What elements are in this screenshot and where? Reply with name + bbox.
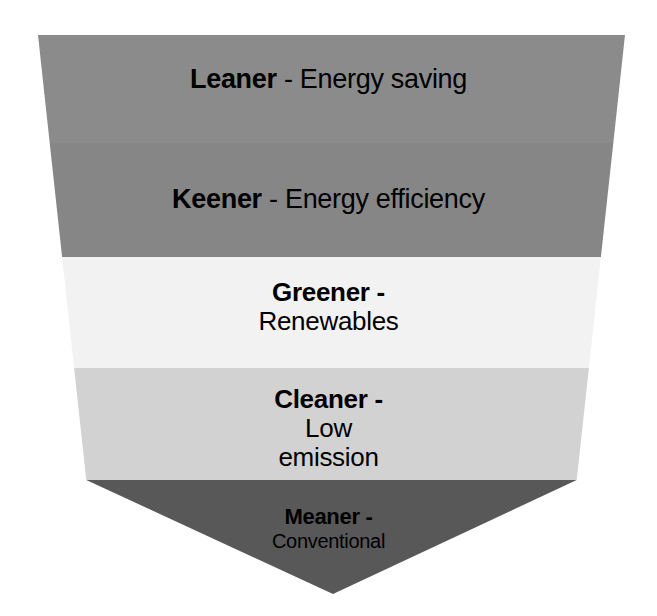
pyramid-label-cleaner-line-2: Low [305, 413, 352, 443]
pyramid-label-leaner: Leaner - Energy saving [0, 64, 657, 94]
pyramid-label-meaner-line-2: Conventional [272, 530, 385, 552]
pyramid-label-cleaner: Cleaner - Low emission [0, 385, 657, 472]
pyramid-label-leaner-lead: Leaner [190, 64, 277, 94]
pyramid-label-greener: Greener - Renewables [0, 278, 657, 336]
inverted-pyramid-diagram: Leaner - Energy saving Keener - Energy e… [0, 0, 657, 616]
pyramid-label-cleaner-line-1: Cleaner - [274, 384, 383, 414]
pyramid-label-layer: Leaner - Energy saving Keener - Energy e… [0, 0, 657, 616]
pyramid-label-keener-description: Energy efficiency [285, 184, 485, 214]
pyramid-label-keener-separator: - [262, 184, 285, 214]
pyramid-label-greener-line-1: Greener - [272, 277, 385, 307]
pyramid-label-keener-lead: Keener [172, 184, 262, 214]
pyramid-label-meaner: Meaner - Conventional [0, 505, 657, 552]
pyramid-label-leaner-separator: - [277, 64, 300, 94]
pyramid-label-greener-line-2: Renewables [258, 306, 398, 336]
pyramid-label-keener: Keener - Energy efficiency [0, 184, 657, 214]
pyramid-label-cleaner-line-3: emission [278, 442, 378, 472]
pyramid-label-meaner-line-1: Meaner - [284, 504, 372, 529]
pyramid-label-leaner-description: Energy saving [300, 64, 467, 94]
